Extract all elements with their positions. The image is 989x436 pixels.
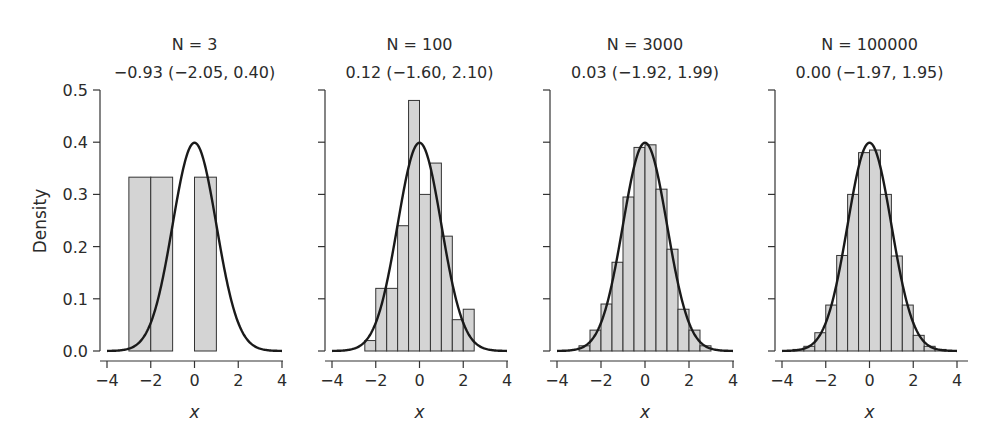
x-tick-label: −2: [814, 371, 838, 390]
x-tick-label: 0: [414, 371, 424, 390]
panels-container: N = 3−0.93 (−2.05, 0.40)0.00.10.20.30.40…: [63, 35, 968, 422]
x-tick-label: −2: [364, 371, 388, 390]
histogram-bars: [129, 177, 217, 351]
histogram-bar: [667, 249, 678, 351]
histogram-bar: [129, 177, 151, 351]
y-axis: 0.00.10.20.30.40.5: [63, 81, 100, 361]
histogram-bar: [452, 320, 463, 351]
x-axis-label: x: [413, 402, 425, 422]
histogram-bar: [913, 335, 924, 351]
x-tick-label: 4: [952, 371, 962, 390]
x-tick-label: −2: [589, 371, 613, 390]
panel-3: N = 30000.03 (−1.92, 1.99)−4−2024x: [543, 35, 738, 422]
x-tick-label: −4: [95, 371, 119, 390]
panel-subtitle: 0.03 (−1.92, 1.99): [571, 63, 719, 82]
panel-title: N = 100000: [821, 35, 918, 54]
histogram-bar: [151, 177, 173, 351]
panel-subtitle: 0.12 (−1.60, 2.10): [345, 63, 493, 82]
x-tick-label: 0: [864, 371, 874, 390]
panel-subtitle: −0.93 (−2.05, 0.40): [114, 63, 275, 82]
y-tick-label: 0.0: [63, 342, 88, 361]
histogram-bars: [365, 100, 474, 351]
y-axis: [768, 90, 775, 351]
y-tick-label: 0.2: [63, 238, 88, 257]
histogram-bar: [859, 153, 870, 351]
x-axis: −4−2024x: [545, 361, 738, 422]
histogram-bars: [793, 150, 946, 351]
histogram-bar: [634, 147, 645, 351]
x-tick-label: 2: [908, 371, 918, 390]
x-axis: −4−2024x: [95, 361, 287, 422]
histogram-bar: [387, 288, 398, 351]
histogram-bar: [463, 309, 474, 351]
histogram-bar: [870, 150, 881, 351]
x-tick-label: 0: [640, 371, 650, 390]
histogram-bar: [601, 304, 612, 351]
x-tick-label: 0: [189, 371, 199, 390]
panel-subtitle: 0.00 (−1.97, 1.95): [795, 63, 943, 82]
x-tick-label: −4: [320, 371, 344, 390]
x-tick-label: 4: [728, 371, 738, 390]
histogram-bar: [409, 100, 420, 351]
panel-title: N = 3000: [607, 35, 683, 54]
x-tick-label: 4: [502, 371, 512, 390]
panel-4: N = 1000000.00 (−1.97, 1.95)−4−2024x: [768, 35, 968, 422]
histogram-figure: Density N = 3−0.93 (−2.05, 0.40)0.00.10.…: [0, 0, 989, 436]
x-axis-label: x: [188, 402, 200, 422]
x-tick-label: −2: [139, 371, 163, 390]
x-axis: −4−2024x: [320, 361, 512, 422]
histogram-bars: [579, 145, 711, 351]
y-tick-label: 0.4: [63, 133, 88, 152]
panel-2: N = 1000.12 (−1.60, 2.10)−4−2024x: [318, 35, 512, 422]
y-tick-label: 0.5: [63, 81, 88, 100]
histogram-bar: [398, 226, 409, 351]
x-tick-label: 2: [458, 371, 468, 390]
y-axis: [318, 90, 325, 351]
y-axis: [543, 90, 550, 351]
histogram-bar: [826, 305, 837, 351]
histogram-bar: [420, 194, 431, 351]
x-tick-label: −4: [545, 371, 569, 390]
panel-title: N = 100: [386, 35, 452, 54]
panel-title: N = 3: [172, 35, 218, 54]
y-tick-label: 0.3: [63, 185, 88, 204]
histogram-bar: [902, 305, 913, 351]
x-axis: −4−2024x: [770, 361, 968, 422]
x-tick-label: 2: [684, 371, 694, 390]
x-tick-label: −4: [770, 371, 794, 390]
y-tick-label: 0.1: [63, 290, 88, 309]
x-axis-label: x: [639, 402, 651, 422]
x-tick-label: 4: [277, 371, 287, 390]
histogram-bar: [645, 145, 656, 351]
histogram-bar: [365, 341, 376, 351]
x-tick-label: 2: [233, 371, 243, 390]
y-axis-label: Density: [30, 189, 50, 254]
panel-1: N = 3−0.93 (−2.05, 0.40)0.00.10.20.30.40…: [63, 35, 288, 422]
x-axis-label: x: [863, 402, 875, 422]
